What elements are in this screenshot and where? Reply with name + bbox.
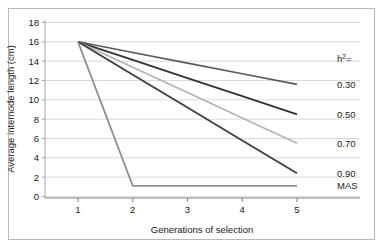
y-axis-tick-labels: 024681012141618 — [28, 17, 39, 202]
y-axis-title: Average internode length (cm) — [5, 45, 16, 173]
x-tick-label: 5 — [294, 204, 299, 215]
y-tick-label: 6 — [34, 133, 39, 144]
y-tick-label: 10 — [28, 94, 39, 105]
x-tick-label: 1 — [75, 204, 80, 215]
legend-label-0-30: 0.30 — [337, 79, 356, 90]
y-tick-label: 0 — [34, 191, 39, 202]
chart-figure: 024681012141618 12345 0.300.500.700.90MA… — [0, 0, 384, 249]
legend-label-mas: MAS — [337, 180, 358, 191]
legend-label-0-70: 0.70 — [337, 138, 356, 149]
x-tick-label: 4 — [240, 204, 245, 215]
line-chart: 024681012141618 12345 0.300.500.700.90MA… — [0, 0, 384, 249]
y-tick-label: 18 — [28, 17, 39, 28]
y-tick-label: 14 — [28, 56, 39, 67]
x-axis-tick-labels: 12345 — [75, 204, 299, 215]
y-tick-label: 4 — [34, 152, 39, 163]
x-tick-label: 3 — [185, 204, 190, 215]
x-tick-label: 2 — [130, 204, 135, 215]
x-axis-title: Generations of selection — [151, 224, 253, 235]
y-tick-label: 12 — [28, 75, 39, 86]
legend-title-equals: = — [346, 53, 352, 64]
legend-label-0-50: 0.50 — [337, 109, 356, 120]
legend-label-0-90: 0.90 — [337, 168, 356, 179]
y-tick-label: 16 — [28, 36, 39, 47]
y-tick-label: 8 — [34, 114, 39, 125]
y-tick-label: 2 — [34, 172, 39, 183]
x-axis-ticks — [78, 198, 297, 202]
